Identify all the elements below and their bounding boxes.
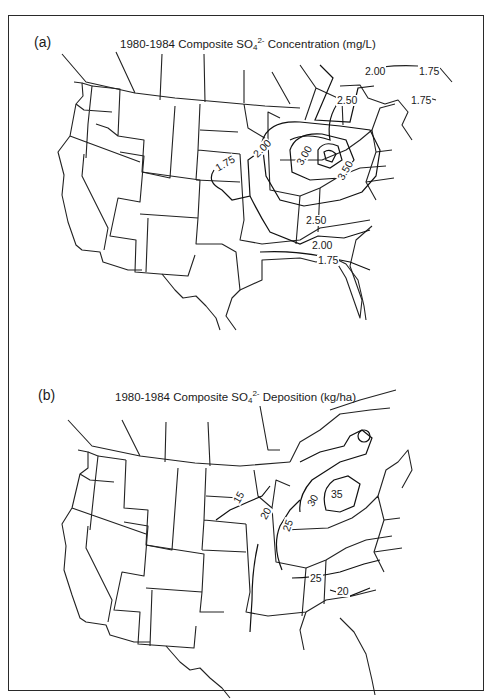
contour-label: 2.50 [336,95,358,106]
contour-label: 2.00 [311,240,333,251]
contour-label: 2.50 [305,215,327,226]
contour-label: 1.75 [410,95,432,106]
deposition-contours [0,350,494,700]
contour-label: 20 [336,586,350,597]
concentration-contours [0,0,494,350]
contour-label: 35 [330,489,344,500]
panel-a-concentration-map: (a) 1980-1984 Composite SO42- Concentrat… [0,0,494,350]
panel-b-deposition-map: (b) 1980-1984 Composite SO42- Deposition… [0,350,494,700]
contour-label: 1.75 [317,255,339,266]
contour-label: 25 [309,573,323,584]
contour-label: 2.00 [364,66,386,77]
contour-label: 1.75 [418,66,440,77]
